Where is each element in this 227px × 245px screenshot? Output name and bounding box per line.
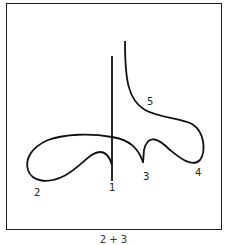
figure-caption: 2 + 3 [0, 234, 227, 245]
label-5: 5 [147, 96, 153, 107]
label-1: 1 [109, 182, 115, 193]
label-4: 4 [195, 167, 201, 178]
label-2: 2 [34, 187, 40, 198]
stroke-5-4 [125, 41, 204, 163]
label-3: 3 [143, 171, 149, 182]
stroke-2-3 [27, 135, 143, 181]
